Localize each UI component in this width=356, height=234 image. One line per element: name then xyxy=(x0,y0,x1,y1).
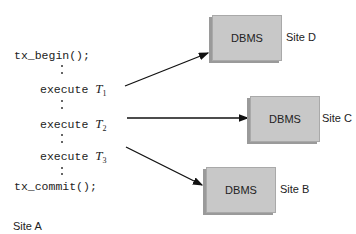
ellipsis-dot xyxy=(61,65,63,67)
execute-t3-statement: execute T3 xyxy=(40,149,106,163)
dbms-box-site-c: DBMS xyxy=(250,96,320,142)
dbms-box-site-b: DBMS xyxy=(206,167,276,213)
tx-commit-statement: tx_commit(); xyxy=(14,181,97,193)
arrow-to-site-d xyxy=(125,53,208,86)
ellipsis-dot xyxy=(61,100,63,102)
site-a-label: Site A xyxy=(13,220,42,232)
ellipsis-dot xyxy=(61,167,63,169)
dbms-box-site-d: DBMS xyxy=(212,15,282,61)
arrow-to-site-b xyxy=(126,147,202,185)
site-c-label: Site C xyxy=(322,112,352,124)
execute-t1-statement: execute T1 xyxy=(40,82,106,96)
ellipsis-dot xyxy=(61,107,63,109)
execute-t2-statement: execute T2 xyxy=(40,117,106,131)
ellipsis-dot xyxy=(61,134,63,136)
transaction-t1: T1 xyxy=(95,81,106,96)
ellipsis-dot xyxy=(61,173,63,175)
ellipsis-dot xyxy=(61,141,63,143)
site-b-label: Site B xyxy=(280,183,309,195)
tx-begin-statement: tx_begin(); xyxy=(14,50,90,62)
transaction-t3: T3 xyxy=(95,148,106,163)
ellipsis-dot xyxy=(61,72,63,74)
site-d-label: Site D xyxy=(286,31,316,43)
transaction-t2: T2 xyxy=(95,116,106,131)
